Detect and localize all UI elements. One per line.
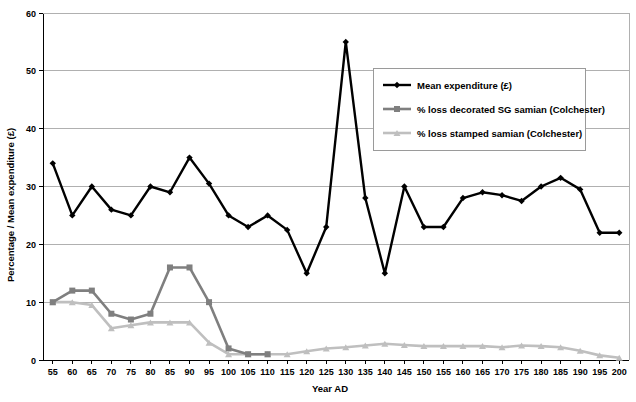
x-tick-label: 145	[397, 367, 412, 377]
chart-legend: Mean expenditure (£)% loss decorated SG …	[373, 68, 605, 150]
x-tick-label: 115	[280, 367, 295, 377]
y-tick-label: 10	[26, 298, 36, 308]
chart-container: 0102030405060 55606570758085909510010511…	[0, 0, 636, 402]
x-axis-title: Year AD	[312, 383, 348, 394]
data-point-marker	[128, 317, 134, 323]
data-point-marker	[394, 106, 400, 112]
y-axis-title: Percentage / Mean expenditure (£)	[5, 128, 16, 282]
y-tick-label: 60	[26, 9, 36, 19]
x-tick-label: 130	[338, 367, 353, 377]
data-point-marker	[69, 288, 75, 294]
y-tick-label: 50	[26, 66, 36, 76]
x-tick-label: 105	[241, 367, 256, 377]
y-tick-label: 30	[26, 182, 36, 192]
x-tick-label: 85	[165, 367, 175, 377]
y-tick-label: 20	[26, 240, 36, 250]
data-point-marker	[89, 288, 95, 294]
x-tick-label: 175	[514, 367, 529, 377]
data-point-marker	[265, 351, 271, 357]
y-tick-label: 0	[31, 356, 36, 366]
legend-entry-2[interactable]: % loss decorated SG samian (Colchester)	[383, 104, 605, 115]
x-tick-label: 150	[416, 367, 431, 377]
x-tick-label: 135	[358, 367, 373, 377]
x-tick-label: 75	[126, 367, 136, 377]
data-point-marker	[245, 351, 251, 357]
x-tick-label: 55	[48, 367, 58, 377]
data-point-marker	[147, 311, 153, 317]
x-tick-label: 100	[221, 367, 236, 377]
data-point-marker	[226, 345, 232, 351]
y-tick-label: 40	[26, 124, 36, 134]
chart-background	[0, 0, 636, 402]
x-tick-label: 140	[377, 367, 392, 377]
data-point-marker	[187, 264, 193, 270]
x-tick-label: 185	[553, 367, 568, 377]
x-tick-label: 155	[436, 367, 451, 377]
x-tick-label: 70	[106, 367, 116, 377]
x-tick-label: 125	[319, 367, 334, 377]
x-tick-label: 95	[204, 367, 214, 377]
x-tick-label: 65	[87, 367, 97, 377]
x-tick-label: 80	[145, 367, 155, 377]
data-point-marker	[108, 311, 114, 317]
x-tick-label: 195	[592, 367, 607, 377]
x-tick-label: 120	[299, 367, 314, 377]
x-tick-label: 200	[612, 367, 627, 377]
line-chart: 0102030405060 55606570758085909510010511…	[0, 0, 636, 402]
x-tick-label: 180	[534, 367, 549, 377]
x-tick-label: 160	[455, 367, 470, 377]
x-tick-label: 90	[184, 367, 194, 377]
legend-entry-label: % loss stamped samian (Colchester)	[417, 128, 582, 139]
x-tick-label: 60	[67, 367, 77, 377]
legend-entry-label: Mean expenditure (£)	[417, 80, 512, 91]
legend-entry-label: % loss decorated SG samian (Colchester)	[417, 104, 605, 115]
x-tick-label: 190	[573, 367, 588, 377]
data-point-marker	[50, 299, 56, 305]
x-tick-label: 170	[495, 367, 510, 377]
x-tick-label: 165	[475, 367, 490, 377]
data-point-marker	[167, 264, 173, 270]
data-point-marker	[206, 299, 212, 305]
x-tick-label: 110	[260, 367, 275, 377]
